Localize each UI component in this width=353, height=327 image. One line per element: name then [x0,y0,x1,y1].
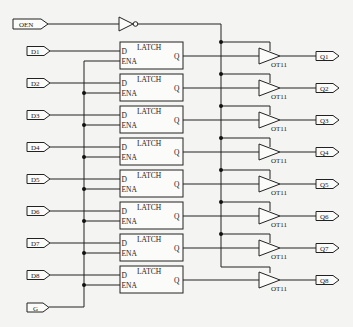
buffer-label: OT11 [271,125,288,133]
pin-label-q1: Q1 [320,53,329,61]
pin-label-q8: Q8 [320,277,329,285]
buffer-label: OT11 [271,157,288,165]
latch-row-4: D4LATCHDENAQOT11Q4 [27,136,339,165]
port-d: D [122,175,128,184]
tristate-buffer-icon: OT11 [259,208,288,229]
input-pin-d3: D3 [27,111,50,120]
output-pin-q6: Q6 [316,212,339,221]
inverter-gate-icon [119,17,138,31]
pin-label-g: G [33,305,38,313]
junction-dot [219,40,223,44]
pin-label-q2: Q2 [320,85,329,93]
latch-block: LATCHDENAQ [120,42,183,69]
buffer-label: OT11 [271,253,288,261]
output-pin-q5: Q5 [316,180,339,189]
tristate-buffer-icon: OT11 [259,272,288,293]
input-pin-d4: D4 [27,143,50,152]
output-pin-q8: Q8 [316,276,339,285]
port-d: D [122,271,128,280]
latch-block: LATCHDENAQ [120,170,183,197]
junction-dot [82,155,86,159]
tristate-buffer-icon: OT11 [259,176,288,197]
pin-label-d2: D2 [31,80,40,88]
port-q: Q [174,276,180,285]
junction-dot [82,123,86,127]
pin-label-q6: Q6 [320,213,329,221]
output-pin-q1: Q1 [316,52,339,61]
latch-title: LATCH [137,267,162,276]
latch-row-3: D3LATCHDENAQOT11Q3 [27,104,339,133]
input-pin-d7: D7 [27,239,50,248]
latch-title: LATCH [137,203,162,212]
input-pin-d8: D8 [27,271,50,280]
junction-dot [82,187,86,191]
pin-label-oen: OEN [19,21,33,29]
junction-dot [219,168,223,172]
pin-label-d1: D1 [31,48,40,56]
latch-row-2: D2LATCHDENAQOT11Q2 [27,72,339,101]
latch-row-7: D7LATCHDENAQOT11Q7 [27,232,339,261]
pin-label-q5: Q5 [320,181,329,189]
junction-dot [219,200,223,204]
junction-dot [82,251,86,255]
latch-block: LATCHDENAQ [120,74,183,101]
latch-row-8: D8LATCHDENAQOT11Q8 [27,266,339,293]
port-q: Q [174,148,180,157]
latch-title: LATCH [137,139,162,148]
input-pin-g: G [27,303,49,313]
pin-label-q3: Q3 [320,117,329,125]
tristate-buffer-icon: OT11 [259,240,288,261]
port-d: D [122,79,128,88]
port-q: Q [174,212,180,221]
pin-label-q7: Q7 [320,245,329,253]
latch-schematic: OEN G D1LATCHDENAQOT11Q1D2LATCHDENAQOT11… [0,0,353,327]
input-pin-d2: D2 [27,79,50,88]
junction-dot [219,136,223,140]
port-q: Q [174,180,180,189]
pin-label-d3: D3 [31,112,40,120]
output-pin-q7: Q7 [316,244,339,253]
port-ena: ENA [122,281,138,290]
latch-block: LATCHDENAQ [120,202,183,229]
buffer-label: OT11 [271,61,288,69]
pin-label-d6: D6 [31,208,40,216]
junction-dot [82,91,86,95]
latch-block: LATCHDENAQ [120,106,183,133]
pin-label-d7: D7 [31,240,40,248]
junction-dot [219,72,223,76]
port-d: D [122,207,128,216]
port-q: Q [174,116,180,125]
latch-block: LATCHDENAQ [120,234,183,261]
port-d: D [122,47,128,56]
pin-label-d5: D5 [31,176,40,184]
latch-block: LATCHDENAQ [120,266,183,293]
input-pin-d6: D6 [27,207,50,216]
latch-block: LATCHDENAQ [120,138,183,165]
pin-label-q4: Q4 [320,149,329,157]
tristate-buffer-icon: OT11 [259,144,288,165]
tristate-buffer-icon: OT11 [259,112,288,133]
pin-label-d4: D4 [31,144,40,152]
port-d: D [122,111,128,120]
latch-row-1: D1LATCHDENAQOT11Q1 [27,40,339,69]
latch-title: LATCH [137,235,162,244]
port-ena: ENA [122,89,138,98]
port-d: D [122,239,128,248]
input-pin-d5: D5 [27,175,50,184]
buffer-label: OT11 [271,221,288,229]
port-ena: ENA [122,121,138,130]
input-pin-d1: D1 [27,47,50,56]
buffer-label: OT11 [271,93,288,101]
latch-title: LATCH [137,107,162,116]
latch-title: LATCH [137,43,162,52]
output-pin-q3: Q3 [316,116,339,125]
port-ena: ENA [122,217,138,226]
port-d: D [122,143,128,152]
output-pin-q2: Q2 [316,84,339,93]
latch-row-5: D5LATCHDENAQOT11Q5 [27,168,339,197]
junction-dot [219,104,223,108]
buffer-label: OT11 [271,189,288,197]
port-q: Q [174,244,180,253]
port-ena: ENA [122,153,138,162]
output-pin-q4: Q4 [316,148,339,157]
